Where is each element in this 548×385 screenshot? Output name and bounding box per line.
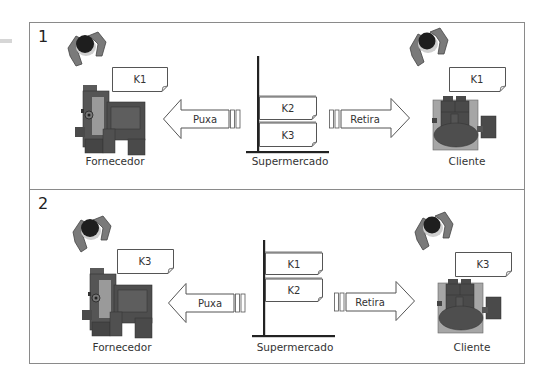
supermarket-label: Supermercado xyxy=(250,155,330,167)
svg-text:K3: K3 xyxy=(282,130,295,141)
supermarket-label: Supermercado xyxy=(254,341,336,353)
customer-machine-icon xyxy=(432,96,498,152)
pull-arrow: Puxa xyxy=(163,99,243,139)
customer-label: Cliente xyxy=(437,155,497,167)
customer-label: Cliente xyxy=(442,341,502,353)
operator-icon xyxy=(71,214,115,258)
panel-number: 2 xyxy=(38,194,48,213)
svg-text:K3: K3 xyxy=(139,256,152,267)
svg-text:Puxa: Puxa xyxy=(198,298,222,309)
supplier-label: Fornecedor xyxy=(92,341,152,353)
svg-text:K1: K1 xyxy=(288,259,301,270)
svg-text:K3: K3 xyxy=(477,259,490,270)
withdraw-arrow: Retira xyxy=(334,281,416,321)
supplier-machine-icon xyxy=(80,268,154,340)
svg-text:Retira: Retira xyxy=(355,297,385,308)
svg-text:K2: K2 xyxy=(282,103,295,114)
withdraw-arrow: Retira xyxy=(329,98,411,138)
operator-icon xyxy=(66,30,110,74)
svg-text:K1: K1 xyxy=(134,74,147,85)
operator-icon xyxy=(413,210,457,254)
customer-machine-icon xyxy=(437,279,503,335)
svg-text:K1: K1 xyxy=(471,74,484,85)
operator-icon xyxy=(408,26,452,70)
svg-text:Puxa: Puxa xyxy=(193,114,217,125)
kanban-card: K1 xyxy=(449,67,506,92)
supermarket-shelf: K2 K3 xyxy=(246,56,330,154)
kanban-card: K3 xyxy=(455,252,512,277)
panel-number: 1 xyxy=(38,27,48,46)
supplier-machine-icon xyxy=(73,85,147,157)
panel-divider xyxy=(29,189,525,190)
supplier-label: Fornecedor xyxy=(85,155,145,167)
svg-text:Retira: Retira xyxy=(350,114,380,125)
pull-arrow: Puxa xyxy=(168,283,250,323)
margin-mark xyxy=(0,39,12,43)
svg-text:K2: K2 xyxy=(288,285,301,296)
supermarket-shelf: K1 K2 xyxy=(252,240,336,338)
